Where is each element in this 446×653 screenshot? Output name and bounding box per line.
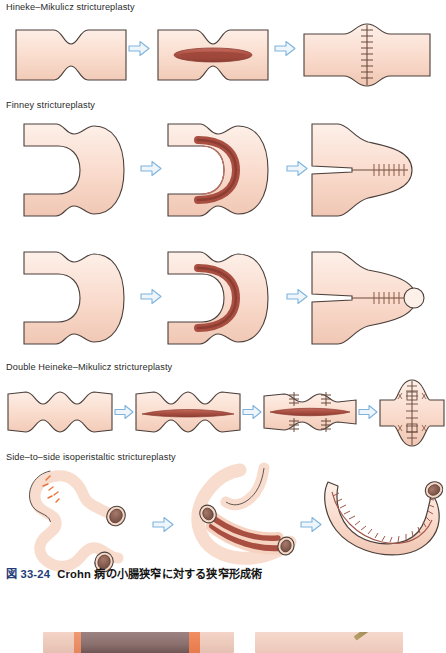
arrow-right-icon-10 (152, 516, 174, 537)
section-label-double-heineke-mikulicz: Double Heineke–Mikulicz strictureplasty (6, 362, 172, 372)
panel-finney-anastomosis-sutured (312, 120, 432, 220)
arrow-right-icon-7 (114, 404, 134, 424)
panel-hineke-transverse-closure (304, 20, 430, 90)
panel-hineke-strictured-bowel (16, 24, 126, 86)
figure-number: 図 33-24 (6, 565, 50, 581)
panel-finney-u-enterotomy (168, 120, 280, 220)
arrow-right-icon-5 (140, 288, 162, 309)
panel-finney2-anastomosis-sutured (312, 248, 434, 348)
arrow-right-icon-11 (300, 516, 322, 537)
clipped-photo-right (255, 632, 403, 653)
panel-finney2-folded-bowel (24, 248, 134, 348)
panel-hineke-longitudinal-enterotomy (158, 24, 268, 86)
figure-caption-text: Crohn 病の小腸狭窄に対する狭窄形成術 (57, 565, 262, 581)
section-label-hineke-mikulicz: Hineke–Mikulicz strictureplasty (6, 2, 135, 12)
panel-sts-apposed-limbs-opened (178, 466, 302, 576)
arrow-right-icon-6 (286, 288, 308, 309)
panel-finney-folded-bowel (24, 120, 134, 220)
panel-sts-coiled-diseased-bowel (26, 472, 146, 576)
arrow-right-icon-4 (286, 160, 308, 181)
arrow-right-icon-9 (358, 404, 378, 424)
arrow-right-icon-8 (242, 404, 262, 424)
panel-dhm-double-transverse-closure (380, 378, 444, 448)
panel-dhm-double-stricture (8, 386, 112, 438)
arrow-right-icon-3 (140, 160, 162, 181)
panel-dhm-long-enterotomy (136, 386, 240, 438)
panel-sts-completed-anastomosis (320, 476, 444, 568)
figure-caption: 図 33-24 Crohn 病の小腸狭窄に対する狭窄形成術 (6, 565, 262, 581)
panel-finney2-u-enterotomy (168, 248, 280, 348)
clipped-photo-left (43, 632, 234, 653)
arrow-right-icon-1 (128, 40, 150, 61)
clipped-photograph-row (0, 632, 446, 653)
section-label-finney: Finney strictureplasty (6, 100, 95, 110)
section-label-side-to-side-isoperistaltic: Side–to–side isoperistaltic stricturepla… (6, 452, 176, 462)
arrow-right-icon-2 (274, 40, 296, 61)
panel-dhm-stay-sutures (264, 386, 356, 438)
figure-page: Hineke–Mikulicz strictureplasty (0, 0, 446, 653)
